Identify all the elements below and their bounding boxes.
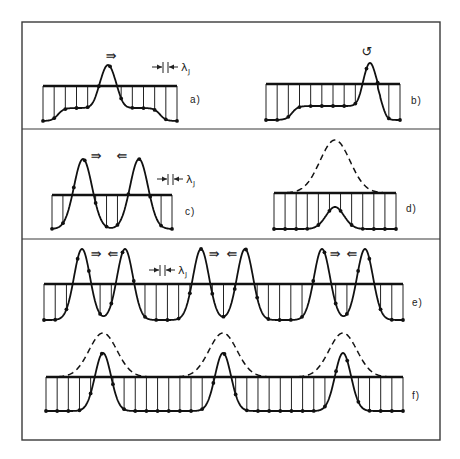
lambda-j-subscript: J bbox=[184, 271, 187, 279]
panel-label-c: c) bbox=[185, 206, 195, 217]
lambda-j-marker: λJ bbox=[157, 173, 195, 188]
field-envelope-dashed bbox=[287, 140, 383, 193]
panel-e: ⇛⇚⇛⇚⇛⇚λJe) bbox=[42, 246, 423, 322]
panel-d: d) bbox=[272, 140, 417, 231]
lambda-j-label: λ bbox=[181, 61, 188, 74]
arrow-left-icon: ⇚ bbox=[117, 148, 128, 163]
arrow-right-icon: ⇛ bbox=[91, 246, 102, 261]
arrow-left-icon: ⇚ bbox=[227, 246, 238, 261]
panel-label-f: f) bbox=[412, 390, 420, 401]
panel-c: ⇛⇚λJc) bbox=[50, 148, 195, 231]
arrow-right-icon: ⇛ bbox=[330, 246, 341, 261]
arrow-right-icon: ⇛ bbox=[91, 148, 102, 163]
field-envelope-dashed bbox=[298, 333, 388, 377]
lambda-j-subscript: J bbox=[187, 68, 190, 76]
panel-f: f) bbox=[44, 333, 420, 413]
marker-arrowhead-icon bbox=[154, 268, 159, 273]
phase-curve bbox=[43, 65, 177, 121]
rotation-arrow-icon: ↺ bbox=[362, 44, 373, 59]
panels: ⇛λJa)↺b)⇛⇚λJc)d)⇛⇚⇛⇚⇛⇚λJe)f) bbox=[41, 44, 423, 413]
lambda-j-subscript: J bbox=[192, 180, 195, 188]
panel-label-d: d) bbox=[406, 203, 417, 214]
marker-arrowhead-icon bbox=[157, 65, 162, 70]
panel-label-b: b) bbox=[411, 95, 422, 106]
soliton-diagram: ⇛λJa)↺b)⇛⇚λJc)d)⇛⇚⇛⇚⇛⇚λJe)f) bbox=[0, 0, 460, 459]
panel-dividers bbox=[22, 129, 440, 239]
arrow-left-icon: ⇚ bbox=[108, 246, 119, 261]
lambda-j-marker: λJ bbox=[149, 264, 187, 279]
arrow-left-icon: ⇚ bbox=[347, 246, 358, 261]
phase-curve bbox=[46, 353, 403, 411]
arrow-right-icon: ⇛ bbox=[106, 48, 117, 63]
phase-curve bbox=[274, 207, 396, 229]
marker-arrowhead-icon bbox=[162, 177, 167, 182]
lambda-j-label: λ bbox=[186, 173, 193, 186]
lambda-j-marker: λJ bbox=[152, 61, 190, 76]
arrow-right-icon: ⇛ bbox=[209, 246, 220, 261]
panel-label-e: e) bbox=[412, 297, 423, 308]
panel-b: ↺b) bbox=[264, 44, 422, 122]
panel-a: ⇛λJa) bbox=[41, 48, 201, 123]
panel-label-a: a) bbox=[190, 94, 201, 105]
lambda-j-label: λ bbox=[178, 264, 185, 277]
